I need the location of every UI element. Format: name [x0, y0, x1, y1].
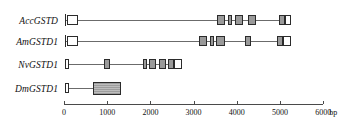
utr-box — [67, 36, 79, 46]
row-label-amgstd1: AmGSTD1 — [0, 37, 58, 48]
row-label-dmgstd1: DmGSTD1 — [0, 84, 58, 95]
utr-box — [67, 15, 79, 25]
axis-tick-label: 3000 — [174, 108, 214, 118]
row-label-text: NvGSTD1 — [18, 60, 58, 71]
gene-track-line — [65, 41, 291, 42]
exon-box — [228, 15, 233, 25]
gene-structure-figure: AccGSTD AmGSTD1 NvGSTD1 DmGSTD1 01000200… — [0, 0, 347, 124]
exon-box — [248, 15, 256, 25]
exon-box — [245, 36, 252, 46]
exon-box — [216, 36, 224, 46]
axis-tick-label: 4000 — [217, 108, 257, 118]
utr-box — [65, 83, 69, 93]
axis-tick-label: 1000 — [87, 108, 127, 118]
exon-box — [235, 15, 243, 25]
axis-tick-label: 2000 — [130, 108, 170, 118]
exon-box — [104, 59, 110, 69]
exon-box — [159, 59, 166, 69]
utr-box — [283, 36, 291, 46]
utr-box — [65, 59, 69, 69]
axis-tick-label: 6000 — [303, 108, 343, 118]
axis-tick-label: 0 — [44, 108, 84, 118]
utr-box — [285, 15, 291, 25]
row-label-accgstd: AccGSTD — [0, 16, 58, 27]
axis-tick — [64, 101, 65, 104]
axis-tick — [194, 101, 195, 104]
axis-tick — [323, 101, 324, 104]
gene-track-line — [65, 20, 291, 21]
axis-tick-label: 5000 — [260, 108, 300, 118]
exon-box — [143, 59, 147, 69]
exon-box — [199, 36, 208, 46]
exon-box — [149, 59, 156, 69]
row-label-text: AmGSTD1 — [16, 37, 58, 48]
row-label-nvgstd1: NvGSTD1 — [0, 60, 58, 71]
exon-box — [210, 36, 214, 46]
exon-box-large — [93, 82, 121, 95]
axis-tick — [280, 101, 281, 104]
axis-line — [64, 104, 323, 105]
row-label-text: DmGSTD1 — [15, 84, 58, 95]
exon-box — [217, 15, 225, 25]
axis-tick — [107, 101, 108, 104]
axis-unit-label: bp — [329, 108, 337, 118]
utr-box — [174, 59, 183, 69]
axis-tick — [150, 101, 151, 104]
row-label-text: AccGSTD — [19, 16, 58, 27]
axis-tick — [237, 101, 238, 104]
